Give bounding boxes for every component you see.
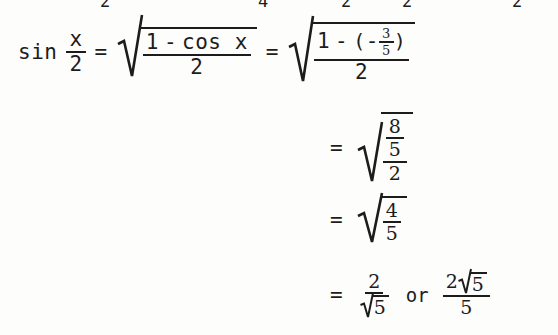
identity-denominator: 2 xyxy=(187,56,206,78)
substituted-numerator: 1-(-35) xyxy=(314,27,409,61)
clipped-digit: 2 xyxy=(341,0,351,11)
step2-inner-numerator: 8 xyxy=(386,117,404,139)
radicand-step-3: 4 5 xyxy=(381,196,407,244)
radical-result-b: 5 xyxy=(458,272,487,294)
equation-line-1: sin x 2 = 1-cos x 2 = xyxy=(18,22,415,83)
step2-inner-denominator: 5 xyxy=(386,139,404,159)
sub-num-left: 1 xyxy=(317,29,330,53)
result-b-denominator: 5 xyxy=(457,297,475,317)
substituted-denominator: 2 xyxy=(352,61,371,83)
radical-sign-icon xyxy=(357,112,381,183)
equation-line-3: = 4 5 xyxy=(330,196,407,244)
result-a-radicand: 5 xyxy=(373,295,389,317)
step3-denominator: 5 xyxy=(383,223,401,243)
argument-denominator: 2 xyxy=(66,53,85,75)
step2-denominator: 2 xyxy=(386,163,404,183)
radical-sign-icon xyxy=(288,22,312,83)
radical-result-a: 5 xyxy=(360,295,389,317)
result-b: 25 5 xyxy=(443,272,490,318)
identity-fraction: 1-cos x 2 xyxy=(143,32,251,79)
argument-numerator: x xyxy=(66,29,85,53)
equals-sign-3: = xyxy=(330,136,343,160)
sin-label: sin xyxy=(18,40,57,64)
result-b-coefficient: 2 xyxy=(446,270,458,292)
radicand-step-2: 8 5 2 xyxy=(381,112,413,183)
inner-negative-sign: - xyxy=(366,29,379,53)
cos-value-numerator: 3 xyxy=(379,27,394,43)
result-a: 2 5 xyxy=(357,272,392,318)
step3-fraction: 4 5 xyxy=(383,201,401,244)
radical-sign-icon xyxy=(117,27,141,79)
radical-substituted: 1-(-35) 2 xyxy=(288,22,415,83)
step2-inner-fraction: 8 5 xyxy=(386,117,404,160)
identity-num-right: cos x xyxy=(182,30,248,54)
worksheet-page: 2 4 2 2 2 sin x 2 = 1-cos x xyxy=(0,0,558,335)
equals-sign-2: = xyxy=(266,40,279,64)
cos-value-fraction: 35 xyxy=(379,27,394,58)
sub-operator: - xyxy=(330,29,353,53)
radical-identity: 1-cos x 2 xyxy=(117,27,257,79)
radicand-identity: 1-cos x 2 xyxy=(141,27,257,79)
result-b-numerator: 25 xyxy=(443,272,490,297)
open-paren: ( xyxy=(353,29,366,53)
result-a-denominator: 5 xyxy=(357,294,392,317)
substituted-fraction: 1-(-35) 2 xyxy=(314,27,409,83)
identity-num-left: 1 xyxy=(146,30,159,54)
identity-operator: - xyxy=(159,30,182,54)
clipped-digit: 2 xyxy=(100,0,110,11)
radical-sign-icon xyxy=(357,196,381,244)
radical-sign-icon xyxy=(360,295,373,317)
radical-sign-icon xyxy=(458,272,471,294)
cos-value-denominator: 5 xyxy=(379,43,394,57)
radicand-substituted: 1-(-35) 2 xyxy=(312,22,415,83)
identity-numerator: 1-cos x xyxy=(143,32,251,56)
equals-sign-4: = xyxy=(330,208,343,232)
radical-step-3: 4 5 xyxy=(357,196,407,244)
equation-line-2: = 8 5 2 xyxy=(330,112,413,183)
clipped-digit: 2 xyxy=(402,0,412,11)
radical-step-2: 8 5 2 xyxy=(357,112,413,183)
clipped-digit: 4 xyxy=(258,0,268,11)
equals-sign-1: = xyxy=(95,40,108,64)
step3-numerator: 4 xyxy=(383,201,401,223)
clipped-previous-line: 2 4 2 2 2 xyxy=(0,0,558,11)
step2-fraction: 8 5 2 xyxy=(383,117,407,183)
equals-sign-5: = xyxy=(330,283,343,307)
equation-line-4: = 2 5 or 25 5 xyxy=(330,272,490,318)
clipped-digit: 2 xyxy=(512,0,522,11)
or-word: or xyxy=(406,284,429,306)
half-angle-argument: x 2 xyxy=(66,29,85,76)
close-paren: ) xyxy=(394,29,407,53)
step2-numerator: 8 5 xyxy=(383,117,407,163)
result-b-radicand: 5 xyxy=(471,272,487,294)
